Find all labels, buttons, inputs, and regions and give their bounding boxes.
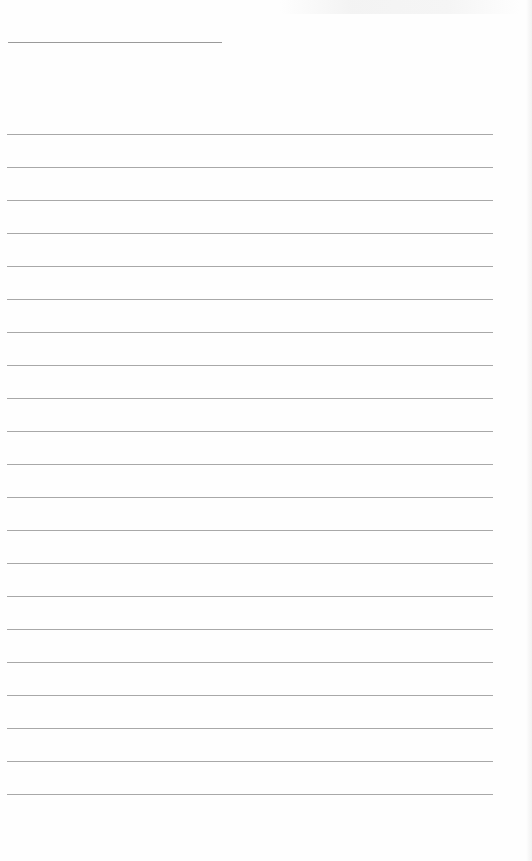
page-edge-shadow: [526, 0, 532, 861]
ruled-line: [7, 464, 493, 465]
ruled-line: [7, 629, 493, 630]
ruled-line: [7, 266, 493, 267]
ruled-line: [7, 233, 493, 234]
ruled-line: [7, 167, 493, 168]
ruled-line: [7, 761, 493, 762]
header-name-line: [8, 42, 222, 43]
ruled-line: [7, 299, 493, 300]
ruled-line: [7, 365, 493, 366]
bleed-through-text: [280, 0, 520, 14]
ruled-line: [7, 563, 493, 564]
lined-paper-page: [0, 0, 532, 861]
ruled-line: [7, 596, 493, 597]
ruled-line: [7, 530, 493, 531]
ruled-line: [7, 200, 493, 201]
ruled-line: [7, 794, 493, 795]
ruled-line: [7, 398, 493, 399]
ruled-line: [7, 134, 493, 135]
ruled-line: [7, 332, 493, 333]
ruled-line: [7, 662, 493, 663]
ruled-line: [7, 728, 493, 729]
ruled-line: [7, 431, 493, 432]
ruled-line: [7, 497, 493, 498]
ruled-line: [7, 695, 493, 696]
